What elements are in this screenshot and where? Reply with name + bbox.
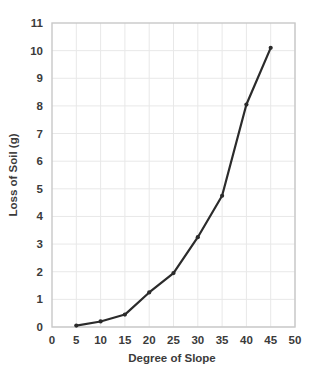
x-tick-label: 35 — [216, 334, 229, 346]
x-tick-label: 50 — [289, 334, 302, 346]
data-point-marker — [220, 194, 224, 198]
x-tick-label: 15 — [119, 334, 132, 346]
x-tick-label: 5 — [73, 334, 80, 346]
y-tick-label: 7 — [37, 128, 43, 140]
y-tick-label: 4 — [37, 210, 44, 222]
line-chart: 05101520253035404550 01234567891011 Degr… — [0, 0, 316, 388]
y-tick-label: 3 — [37, 238, 43, 250]
data-point-marker — [123, 312, 127, 316]
x-tick-label: 20 — [143, 334, 156, 346]
data-point-marker — [99, 319, 103, 323]
x-tick-label: 45 — [264, 334, 277, 346]
x-tick-label: 40 — [240, 334, 253, 346]
chart-container: 05101520253035404550 01234567891011 Degr… — [0, 0, 316, 388]
x-tick-label: 30 — [191, 334, 204, 346]
x-tick-label: 0 — [49, 334, 55, 346]
y-tick-label: 2 — [37, 266, 43, 278]
y-tick-label: 6 — [37, 155, 43, 167]
x-tick-label: 10 — [94, 334, 107, 346]
chart-background — [0, 0, 316, 388]
y-tick-label: 11 — [31, 17, 44, 29]
y-tick-label: 10 — [30, 45, 43, 57]
y-tick-label: 5 — [37, 183, 44, 195]
y-tick-label: 8 — [37, 100, 44, 112]
data-point-marker — [196, 235, 200, 239]
y-tick-label: 1 — [37, 293, 44, 305]
data-point-marker — [171, 271, 175, 275]
x-tick-label: 25 — [167, 334, 180, 346]
data-point-marker — [147, 290, 151, 294]
y-tick-label: 9 — [37, 72, 43, 84]
y-tick-label: 0 — [37, 321, 43, 333]
data-point-marker — [244, 102, 248, 106]
data-point-marker — [74, 324, 78, 328]
x-axis-title: Degree of Slope — [128, 352, 216, 364]
y-axis-title: Loss of Soil (g) — [7, 133, 19, 216]
data-point-marker — [269, 46, 273, 50]
